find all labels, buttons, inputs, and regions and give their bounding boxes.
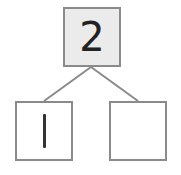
whole-value: 2 bbox=[79, 14, 104, 60]
part-box-right[interactable] bbox=[109, 101, 167, 161]
connector-left bbox=[44, 67, 91, 101]
part-box-left: 1 bbox=[15, 101, 73, 161]
part-left-value-one bbox=[43, 114, 46, 148]
whole-box: 2 bbox=[63, 7, 121, 67]
connector-right bbox=[91, 67, 138, 101]
